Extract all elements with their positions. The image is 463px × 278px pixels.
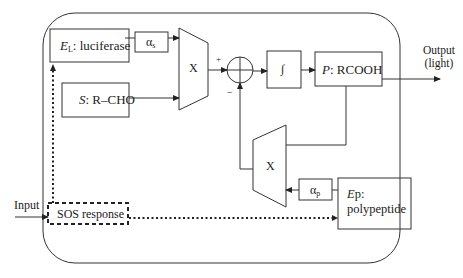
summing-junction xyxy=(227,57,253,83)
multiplier-top-label: X xyxy=(189,62,198,74)
alpha-p-label: αp xyxy=(310,184,320,198)
input-label: Input xyxy=(14,199,39,211)
substrate-label: S: R–CHO xyxy=(79,93,135,106)
product-label: P: RCOOH xyxy=(322,63,382,76)
sum-plus-sign: + xyxy=(216,55,221,64)
sum-minus-sign: − xyxy=(227,88,233,98)
luciferase-label: EL: luciferase xyxy=(60,39,130,54)
integrator-label: ∫ xyxy=(281,63,284,75)
output-label: Output (light) xyxy=(423,44,455,70)
polypeptide-label: Ep: polypeptide xyxy=(347,187,406,217)
alpha-s-label: αs xyxy=(146,36,155,50)
multiplier-bottom-label: X xyxy=(266,160,275,172)
sos-response-label: SOS response xyxy=(57,208,124,220)
